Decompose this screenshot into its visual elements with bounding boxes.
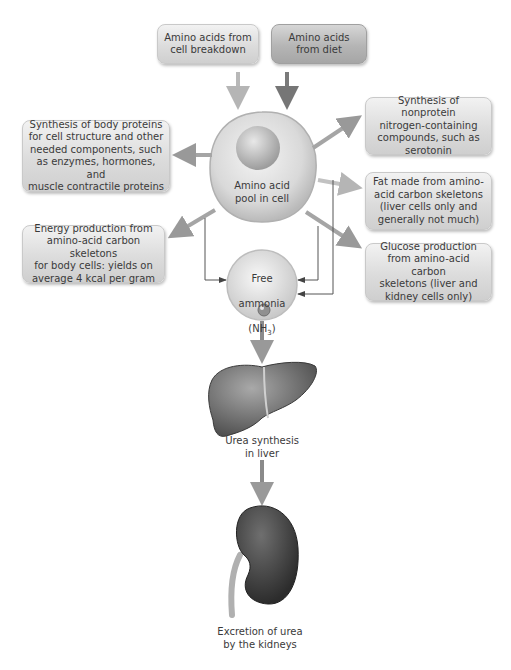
- arrow-to-nonprotein: [313, 122, 352, 148]
- glucose-production-text: Glucose production from amino-acid carbo…: [370, 241, 487, 304]
- urea-excretion-label: Excretion of urea by the kidneys: [205, 626, 315, 651]
- amino-acids-from-cell-breakdown-box: Amino acids from cell breakdown: [157, 24, 259, 64]
- body-proteins-box: Synthesis of body proteins for cell stru…: [22, 120, 170, 192]
- liver-illustration: [209, 362, 317, 436]
- fat-production-box: Fat made from amino- acid carbon skeleto…: [365, 172, 492, 230]
- fat-production-text: Fat made from amino- acid carbon skeleto…: [373, 176, 484, 226]
- glucose-production-box: Glucose production from amino-acid carbo…: [365, 243, 492, 301]
- arrow-to-fat: [318, 180, 351, 186]
- cell-breakdown-text: Amino acids from cell breakdown: [164, 32, 251, 57]
- ammonia-line2: ammonia: [227, 298, 297, 311]
- nonprotein-nitrogen-box: Synthesis of nonprotein nitrogen-contain…: [365, 97, 492, 155]
- energy-production-text: Energy production from amino-acid carbon…: [27, 223, 160, 286]
- body-proteins-text: Synthesis of body proteins for cell stru…: [27, 119, 165, 194]
- free-ammonia-label: Free ammonia (NH3): [227, 260, 297, 352]
- ammonia-formula: (NH3): [227, 323, 297, 340]
- kidney-illustration: [231, 506, 298, 615]
- amino-acid-pool-cell: [210, 112, 316, 222]
- energy-production-box: Energy production from amino-acid carbon…: [22, 225, 165, 283]
- nonprotein-nitrogen-text: Synthesis of nonprotein nitrogen-contain…: [370, 95, 487, 158]
- arrow-to-energy: [178, 210, 215, 232]
- diet-text: Amino acids from diet: [289, 32, 350, 57]
- nucleus-icon: [236, 126, 280, 170]
- amino-acid-pool-label: Amino acid pool in cell: [222, 180, 302, 205]
- ammonia-line1: Free: [227, 273, 297, 286]
- urea-synthesis-label: Urea synthesis in liver: [212, 435, 312, 460]
- amino-acids-from-diet-box: Amino acids from diet: [271, 24, 367, 64]
- arrow-to-glucose: [306, 212, 352, 242]
